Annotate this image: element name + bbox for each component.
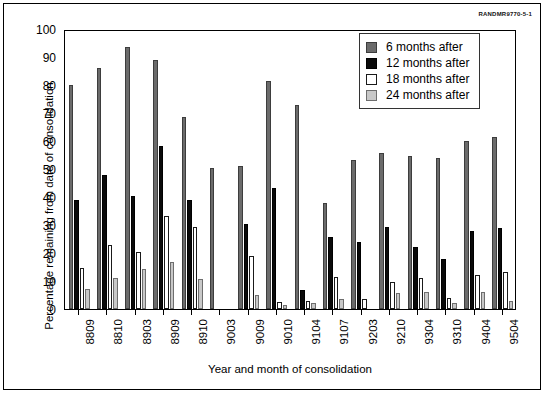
- bar-9009-18mo: [249, 256, 254, 309]
- x-axis-tick-label: 9310: [451, 319, 463, 345]
- bar-9210-18mo: [390, 282, 395, 309]
- legend: 6 months after12 months after18 months a…: [359, 33, 480, 109]
- bar-9210-6mo: [379, 153, 384, 309]
- bar-9504-24mo: [509, 301, 514, 309]
- bar-9104-24mo: [311, 303, 316, 309]
- bar-9104-12mo: [300, 290, 305, 309]
- bar-9003-6mo: [210, 168, 215, 309]
- bar-9107-6mo: [323, 203, 328, 309]
- y-axis-tick-label: 10: [43, 275, 56, 289]
- bar-group: [263, 31, 291, 309]
- bar-9310-6mo: [436, 158, 441, 309]
- x-axis-tick-label: 9010: [282, 319, 294, 345]
- bar-8909-18mo: [164, 216, 169, 309]
- legend-item: 18 months after: [366, 71, 469, 87]
- legend-swatch-icon: [366, 74, 377, 85]
- legend-item: 24 months after: [366, 87, 469, 103]
- bar-9107-24mo: [339, 299, 344, 309]
- bar-9009-24mo: [255, 295, 260, 309]
- x-axis-tick-mark: [417, 310, 418, 315]
- x-axis-tick-label: 9104: [310, 319, 322, 345]
- bar-8810-18mo: [108, 245, 113, 309]
- document-id-label: RANDMR9770-5-1: [479, 11, 532, 17]
- bar-9010-24mo: [283, 305, 288, 309]
- legend-item: 6 months after: [366, 39, 469, 55]
- legend-item: 12 months after: [366, 55, 469, 71]
- legend-swatch-icon: [366, 90, 377, 101]
- bar-9203-6mo: [351, 160, 356, 309]
- bar-8910-12mo: [187, 200, 192, 309]
- bar-9010-18mo: [277, 302, 282, 309]
- bar-group: [235, 31, 263, 309]
- x-axis-tick-label: 9203: [367, 319, 379, 345]
- y-axis-tick-label: 60: [43, 135, 56, 149]
- x-axis: 8809881089038909891090039009901091049107…: [64, 310, 516, 356]
- x-axis-tick-mark: [502, 310, 503, 315]
- bar-8809-24mo: [85, 289, 90, 309]
- legend-item-label: 12 months after: [386, 56, 469, 70]
- bar-8810-24mo: [113, 278, 118, 309]
- bar-group: [319, 31, 347, 309]
- bar-9404-18mo: [475, 275, 480, 309]
- x-axis-tick-mark: [219, 310, 220, 315]
- x-axis-tick-mark: [361, 310, 362, 315]
- y-axis: Percentage remaining from date of consol…: [0, 30, 64, 310]
- bar-9504-6mo: [492, 137, 497, 309]
- x-axis-tick-mark: [304, 310, 305, 315]
- x-axis-tick-label: 9009: [254, 319, 266, 345]
- bar-9304-12mo: [413, 247, 418, 309]
- x-axis-tick-label: 9003: [225, 319, 237, 345]
- bar-9104-6mo: [295, 105, 300, 309]
- legend-item-label: 24 months after: [386, 88, 469, 102]
- y-axis-tick-label: 20: [43, 247, 56, 261]
- x-axis-tick-mark: [445, 310, 446, 315]
- bar-8909-6mo: [153, 60, 158, 309]
- bar-9010-6mo: [266, 81, 271, 309]
- bar-group: [93, 31, 121, 309]
- bar-9310-24mo: [452, 303, 457, 309]
- bar-group: [291, 31, 319, 309]
- bar-group: [489, 31, 517, 309]
- bar-9010-12mo: [272, 188, 277, 309]
- x-axis-tick-mark: [78, 310, 79, 315]
- y-axis-tick-label: 30: [43, 219, 56, 233]
- bar-9504-18mo: [503, 272, 508, 309]
- bar-8903-24mo: [142, 269, 147, 309]
- x-axis-tick-label: 9107: [338, 319, 350, 345]
- legend-swatch-icon: [366, 58, 377, 69]
- bar-9304-18mo: [419, 278, 424, 309]
- x-axis-tick-mark: [106, 310, 107, 315]
- bar-9304-24mo: [424, 292, 429, 309]
- bar-8810-12mo: [102, 175, 107, 309]
- legend-item-label: 18 months after: [386, 72, 469, 86]
- bar-8809-12mo: [74, 200, 79, 309]
- x-axis-tick-mark: [163, 310, 164, 315]
- bar-9210-24mo: [396, 293, 401, 309]
- x-axis-title: Year and month of consolidation: [64, 363, 516, 375]
- bar-9009-6mo: [238, 166, 243, 309]
- bar-9404-24mo: [481, 292, 486, 309]
- bar-9210-12mo: [385, 227, 390, 309]
- bar-8810-6mo: [97, 68, 102, 309]
- figure: RANDMR9770-5-1 Percentage remaining from…: [0, 0, 544, 393]
- bar-9310-18mo: [447, 298, 452, 309]
- bar-8903-6mo: [125, 47, 130, 309]
- bar-8903-18mo: [136, 252, 141, 309]
- x-axis-tick-mark: [248, 310, 249, 315]
- bar-group: [178, 31, 206, 309]
- bar-8909-12mo: [159, 146, 164, 309]
- x-axis-tick-label: 8903: [141, 319, 153, 345]
- x-axis-tick-label: 9404: [480, 319, 492, 345]
- x-axis-tick-mark: [389, 310, 390, 315]
- x-axis-tick-mark: [474, 310, 475, 315]
- y-axis-tick-label: 70: [43, 107, 56, 121]
- x-axis-tick-mark: [135, 310, 136, 315]
- bar-8809-18mo: [80, 268, 85, 309]
- bar-8910-24mo: [198, 279, 203, 309]
- x-axis-tick-label: 8810: [112, 319, 124, 345]
- bar-9009-12mo: [244, 224, 249, 309]
- bar-9107-18mo: [334, 277, 339, 309]
- bar-9203-12mo: [357, 242, 362, 309]
- x-axis-tick-label: 9504: [508, 319, 520, 345]
- bar-8910-18mo: [193, 227, 198, 309]
